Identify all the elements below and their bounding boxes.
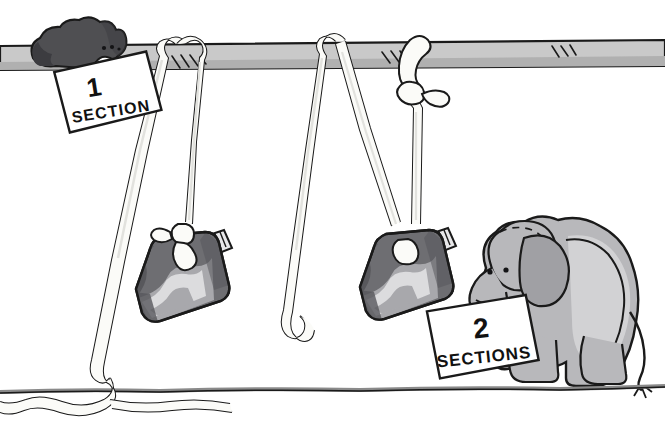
dark-elephant-eye-right [110,45,114,49]
cartoon-scene: 1 SECTION 2 SECTIONS [0,0,665,443]
dark-elephant-eye-left [102,46,106,50]
light-elephant-eye-left [487,269,492,274]
light-elephant-eye-right [503,267,508,272]
label-two-number: 2 [472,312,491,344]
bag-right-knot [393,239,419,264]
